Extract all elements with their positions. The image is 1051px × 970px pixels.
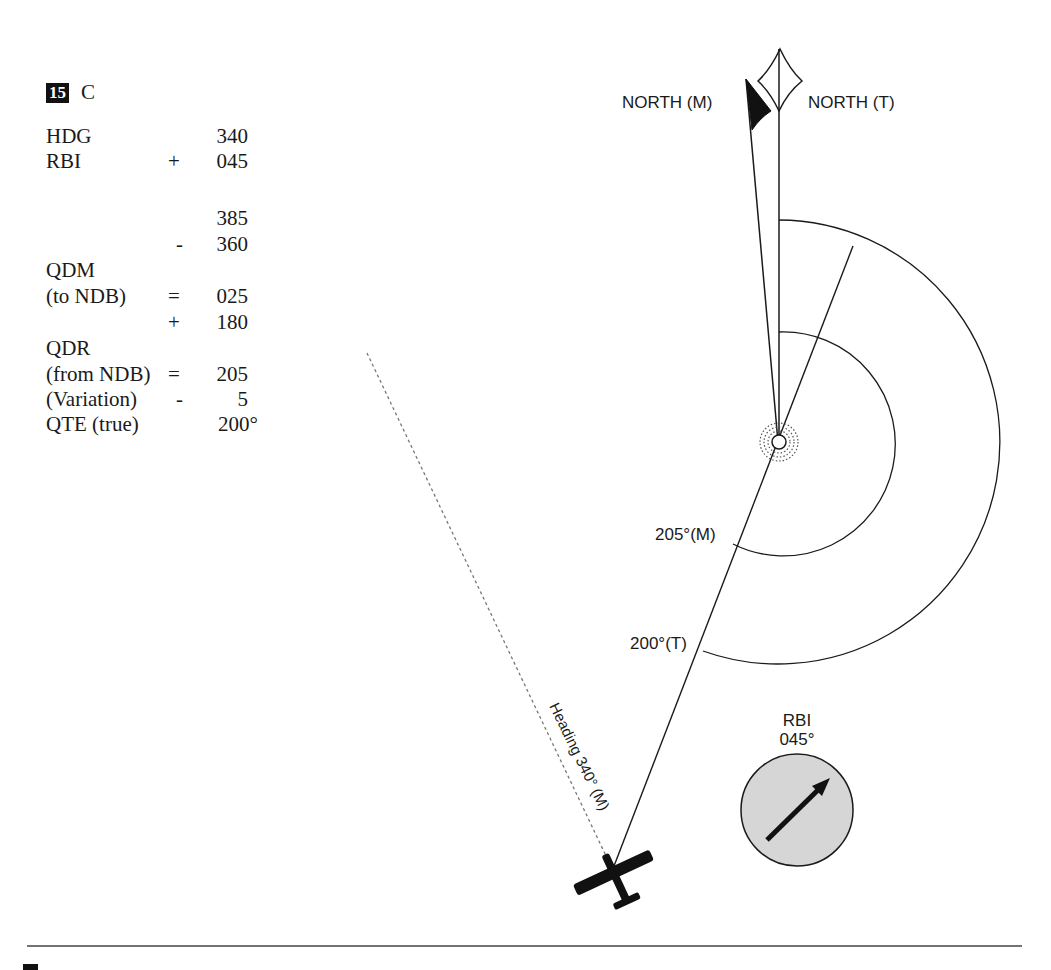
next-question-marker: [23, 964, 38, 970]
bearing-true-label: 200°(T): [630, 634, 687, 653]
magnetic-north-line: [746, 79, 778, 442]
heading-line: [367, 353, 607, 858]
rbi-indicator: RBI 045°: [741, 711, 853, 866]
north-true-label: NORTH (T): [808, 93, 895, 112]
heading-label: Heading 340° (M): [546, 700, 613, 813]
true-bearing-arc: [703, 220, 1000, 664]
ndb-diagram: NORTH (M) NORTH (T) 205°(M) 200°(T) Head…: [0, 0, 1051, 970]
true-north-arrow-icon: [758, 49, 802, 111]
rbi-title: RBI: [783, 711, 811, 730]
aircraft-icon: [567, 837, 666, 922]
bearing-magnetic-label: 205°(M): [655, 525, 716, 544]
north-magnetic-label: NORTH (M): [622, 93, 712, 112]
rbi-value: 045°: [779, 730, 814, 749]
magnetic-bearing-arc: [733, 332, 895, 556]
